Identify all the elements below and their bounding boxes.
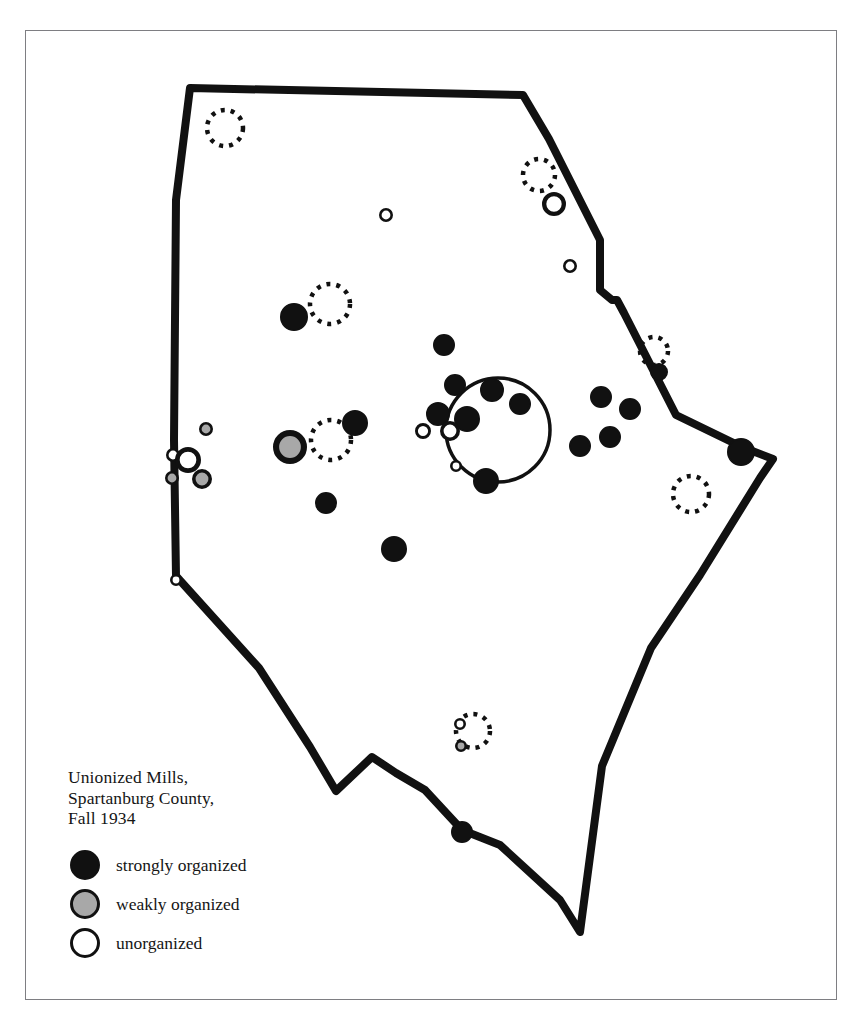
locality-ring-2 (310, 284, 350, 324)
mill-marker-7 (510, 394, 531, 415)
mill-marker-16 (200, 423, 211, 434)
locality-ring-1 (523, 159, 555, 191)
legend-items: strongly organized weakly organized unor… (68, 846, 388, 963)
mill-marker-15 (442, 423, 458, 439)
mill-marker-0 (380, 209, 391, 220)
mill-marker-8 (591, 387, 612, 408)
mill-marker-19 (600, 427, 621, 448)
mill-marker-27 (316, 493, 337, 514)
strongly-organized-swatch-icon (70, 850, 100, 880)
legend-item-weakly-organized: weakly organized (68, 885, 388, 924)
unorganized-swatch-icon (70, 928, 100, 958)
mill-marker-29 (171, 575, 180, 584)
mill-marker-28 (382, 537, 407, 562)
weakly-organized-swatch-icon (70, 889, 100, 919)
mill-marker-25 (166, 472, 177, 483)
legend-item-strongly-organized: strongly organized (68, 846, 388, 885)
mill-marker-17 (276, 433, 304, 461)
mill-marker-30 (455, 719, 464, 728)
mill-marker-31 (456, 741, 465, 750)
mill-marker-1 (544, 194, 564, 214)
mill-marker-9 (343, 411, 368, 436)
mill-marker-3 (281, 304, 308, 331)
mill-marker-12 (620, 399, 641, 420)
map-legend: Unionized Mills, Spartanburg County, Fal… (68, 767, 388, 963)
map-figure: Unionized Mills, Spartanburg County, Fal… (0, 0, 864, 1031)
mill-marker-10 (427, 403, 450, 426)
mill-marker-6 (481, 379, 504, 402)
legend-label-strongly-organized: strongly organized (116, 855, 246, 876)
legend-label-unorganized: unorganized (116, 933, 202, 954)
mill-marker-24 (177, 449, 198, 470)
mill-marker-4 (434, 335, 455, 356)
mill-marker-26 (194, 471, 210, 487)
mill-marker-5 (651, 364, 668, 381)
mill-marker-2 (564, 260, 575, 271)
locality-ring-0 (207, 110, 243, 146)
legend-item-unorganized: unorganized (68, 924, 388, 963)
legend-label-weakly-organized: weakly organized (116, 894, 240, 915)
locality-ring-5 (673, 476, 709, 512)
mill-markers (166, 194, 754, 842)
mill-marker-21 (451, 461, 460, 470)
mill-marker-14 (416, 424, 429, 437)
mill-marker-32 (452, 822, 473, 843)
mill-marker-20 (728, 439, 755, 466)
mill-marker-13 (445, 375, 466, 396)
mill-marker-22 (474, 469, 499, 494)
legend-title: Unionized Mills, Spartanburg County, Fal… (68, 767, 388, 829)
mill-marker-18 (570, 436, 591, 457)
